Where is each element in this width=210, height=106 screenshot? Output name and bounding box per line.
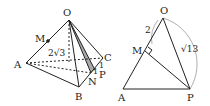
label-N: N [88,76,97,87]
label-OP: √13 [181,44,198,54]
label-C: C [104,52,112,63]
label-O: O [63,7,71,18]
label-A: A [13,59,22,70]
label-P2: P [187,92,194,103]
label-P: P [99,69,106,80]
figure-canvas: O M A B C N P 1 1 2√3 O M A P 2 √13 [0,0,210,106]
label-M: M [35,33,45,44]
label-A2: A [117,92,126,103]
label-B: B [75,91,82,102]
label-O2: O [160,5,168,16]
label-edge-OA: 2√3 [48,48,65,58]
label-PN: 1 [93,67,98,76]
label-OM: 2 [145,25,151,35]
label-M2: M [132,45,142,56]
label-CP: 1 [99,61,104,70]
